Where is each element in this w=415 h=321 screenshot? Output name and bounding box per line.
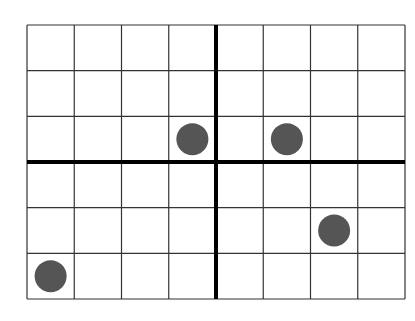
axes — [27, 25, 405, 299]
data-point — [176, 123, 208, 155]
data-point — [35, 260, 67, 292]
coordinate-grid — [0, 0, 415, 321]
data-point — [271, 123, 303, 155]
data-point — [318, 215, 350, 247]
